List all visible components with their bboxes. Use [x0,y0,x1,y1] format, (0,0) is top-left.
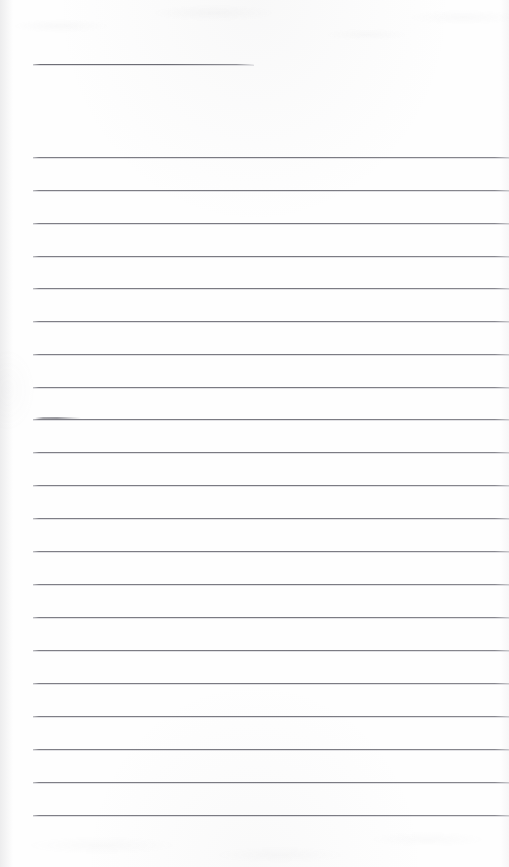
ruled-line [33,223,509,224]
ruled-line [33,683,509,684]
ruled-line [33,782,509,783]
title-rule [33,64,254,65]
ruled-line [33,617,509,618]
ruled-line [33,190,509,191]
ruled-line [33,387,509,388]
ruled-line [33,584,509,585]
ruled-line [33,157,509,158]
ruled-line [33,749,509,750]
scanned-page [0,0,509,867]
ruled-line [33,716,509,717]
ruled-line [33,321,509,322]
ruled-line [33,650,509,651]
ruled-line [33,419,509,420]
ruled-line [33,256,509,257]
ruled-line [33,815,509,816]
ruled-line [33,354,509,355]
ink-smudge [35,417,81,419]
ruled-line [33,452,509,453]
paper-surface [0,0,509,867]
ruled-line [33,551,509,552]
ruled-line [33,518,509,519]
ruled-line [33,288,509,289]
ruled-line [33,485,509,486]
